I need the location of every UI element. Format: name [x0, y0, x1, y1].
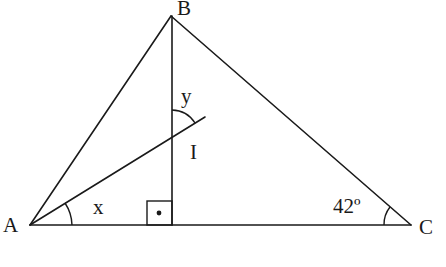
- angle-arc-y: [172, 110, 195, 123]
- vertex-label-C: C: [419, 215, 433, 239]
- side-AB: [30, 16, 171, 225]
- triangle-diagram: B A C I x y 42º: [0, 0, 446, 267]
- side-BC: [171, 16, 411, 225]
- angle-arc-A: [65, 203, 72, 225]
- angle-label-x: x: [93, 195, 104, 219]
- vertex-label-A: A: [3, 213, 19, 237]
- right-angle-dot: [157, 211, 162, 216]
- angle-label-y: y: [181, 84, 192, 108]
- point-label-I: I: [190, 140, 197, 164]
- angle-arc-C: [384, 207, 390, 225]
- bisector-AI: [30, 117, 205, 225]
- angle-label-42: 42º: [333, 194, 361, 218]
- vertex-label-B: B: [177, 0, 191, 20]
